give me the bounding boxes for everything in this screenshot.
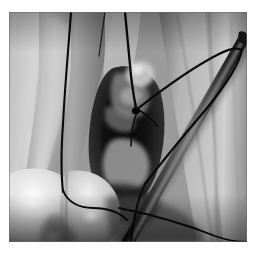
page-root — [0, 0, 256, 259]
surgical-photo-frame[interactable] — [9, 12, 247, 242]
photo-top-shading — [9, 12, 247, 52]
photo-bottom-shading — [9, 194, 247, 242]
surgical-photo-image — [9, 12, 247, 242]
footer-strip — [0, 244, 256, 259]
